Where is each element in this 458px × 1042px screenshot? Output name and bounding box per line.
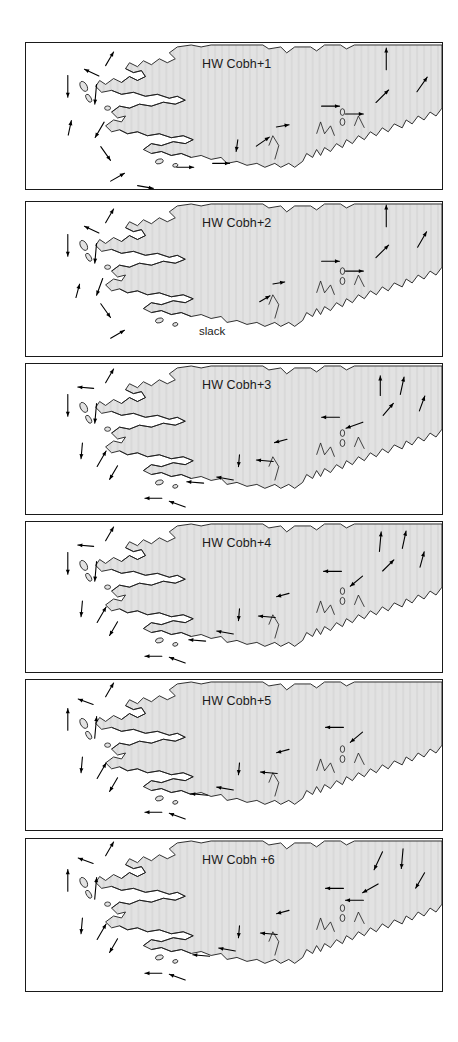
panel-time-label: HW Cobh+1 <box>202 57 271 71</box>
offshore-island <box>340 755 345 762</box>
offshore-island <box>172 322 178 327</box>
current-arrow <box>97 607 106 622</box>
panel-time-label: HW Cobh+3 <box>202 378 271 392</box>
current-arrow <box>189 638 206 642</box>
current-arrow <box>97 763 106 778</box>
current-arrow <box>78 543 94 547</box>
current-arrow <box>145 810 162 814</box>
offshore-island <box>340 914 345 921</box>
offshore-island <box>78 717 89 730</box>
offshore-island <box>155 479 164 486</box>
current-arrow <box>93 404 97 424</box>
offshore-island <box>340 118 345 125</box>
current-arrow <box>106 527 114 541</box>
current-arrow <box>78 858 93 864</box>
current-arrow <box>94 878 98 900</box>
current-arrow <box>106 842 114 856</box>
current-arrow <box>93 84 97 104</box>
offshore-island <box>78 559 89 572</box>
offshore-island <box>340 439 345 446</box>
offshore-island <box>85 889 93 899</box>
offshore-island <box>85 730 93 740</box>
tidal-stream-figure: HW Cobh+1HW Cobh+2slackHW Cobh+3HW Cobh+… <box>0 0 458 1042</box>
current-arrow <box>79 443 83 459</box>
current-arrow <box>101 304 111 318</box>
current-arrow <box>106 52 114 66</box>
offshore-island <box>85 414 93 424</box>
current-arrow <box>66 76 70 98</box>
offshore-island <box>105 265 111 269</box>
current-arrow <box>95 122 104 137</box>
current-arrow <box>110 622 118 636</box>
offshore-island <box>340 277 345 284</box>
current-arrow <box>145 496 162 500</box>
current-arrow <box>97 451 106 466</box>
current-arrow <box>68 121 72 135</box>
current-arrow <box>169 657 185 663</box>
offshore-island <box>78 239 89 252</box>
current-arrow <box>93 243 97 263</box>
tidal-panel-1: HW Cobh+1 <box>25 42 443 190</box>
current-arrow <box>101 147 111 161</box>
current-arrow <box>78 699 93 705</box>
offshore-island <box>340 268 344 275</box>
tidal-panel-3: HW Cobh+3 <box>25 363 443 515</box>
current-arrow <box>66 870 70 892</box>
offshore-island <box>155 637 164 644</box>
current-arrow <box>145 971 162 975</box>
offshore-island <box>78 80 89 93</box>
current-arrow <box>79 601 83 617</box>
current-arrow <box>93 562 97 582</box>
current-arrow <box>106 683 114 697</box>
current-arrow <box>97 924 106 939</box>
tidal-panel-5: HW Cobh+5 <box>25 679 443 831</box>
current-arrow <box>84 69 98 76</box>
current-arrow <box>79 757 83 773</box>
offshore-island <box>105 902 111 906</box>
offshore-island <box>85 93 93 103</box>
offshore-island <box>340 905 344 912</box>
tidal-panel-6: HW Cobh +6 <box>25 838 443 992</box>
current-arrow <box>177 165 194 169</box>
offshore-island <box>105 106 111 110</box>
current-arrow <box>110 939 118 953</box>
current-arrow <box>76 284 80 297</box>
offshore-island <box>85 572 93 582</box>
current-arrow <box>78 385 94 389</box>
offshore-island <box>155 795 164 802</box>
panel-time-label: HW Cobh+4 <box>202 536 271 550</box>
current-arrow <box>66 395 70 417</box>
current-arrow <box>111 173 125 181</box>
offshore-island <box>172 800 178 805</box>
current-arrow <box>138 186 154 189</box>
offshore-island <box>105 743 111 747</box>
panel-time-label: HW Cobh+2 <box>202 216 271 230</box>
offshore-island <box>105 585 111 589</box>
offshore-island <box>340 597 345 604</box>
offshore-island <box>340 430 344 437</box>
offshore-island <box>85 252 93 262</box>
offshore-island <box>172 484 178 489</box>
tidal-panel-4: HW Cobh+4 <box>25 521 443 673</box>
current-arrow <box>169 974 185 980</box>
current-arrow <box>106 209 114 223</box>
offshore-island <box>155 317 164 324</box>
current-arrow <box>110 466 118 480</box>
panel-time-label: HW Cobh +6 <box>202 853 275 867</box>
current-arrow <box>66 235 70 257</box>
offshore-island <box>155 158 164 165</box>
slack-water-annotation: slack <box>199 325 225 337</box>
current-arrow <box>169 501 185 507</box>
current-arrow <box>79 918 83 934</box>
current-arrow <box>187 480 204 484</box>
offshore-island <box>340 588 344 595</box>
current-arrow <box>84 226 98 233</box>
offshore-island <box>340 746 344 753</box>
current-arrow <box>94 717 98 739</box>
current-arrow <box>106 369 114 383</box>
current-arrow <box>111 330 125 338</box>
current-arrow <box>169 813 185 819</box>
current-arrow <box>66 709 70 731</box>
current-arrow <box>66 553 70 575</box>
tidal-panel-2: HW Cobh+2slack <box>25 201 443 357</box>
